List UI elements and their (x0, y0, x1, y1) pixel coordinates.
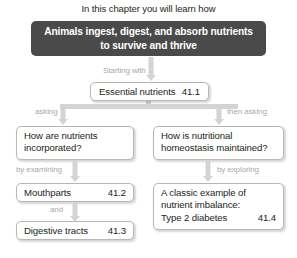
node-question-right[interactable]: How is nutritional homeostasis maintaine… (153, 126, 284, 160)
connector-hbar-split (60, 104, 238, 109)
connector-label-starting-with: Starting with (103, 66, 146, 75)
node-essential-nutrients-label: Essential nutrients (99, 86, 176, 98)
node-question-right-line-1: How is nutritional (161, 130, 276, 142)
node-type-2-diabetes-label: Type 2 diabetes (161, 212, 227, 224)
node-type-2-diabetes[interactable]: A classic example of nutrient imbalance:… (153, 183, 284, 230)
connector-label-by-examining: by examining (16, 165, 62, 174)
node-question-left[interactable]: How are nutrients incorporated? (16, 126, 134, 160)
arrow-to-mouthparts (70, 160, 80, 182)
node-mouthparts-label: Mouthparts (24, 187, 71, 199)
chapter-roadmap-figure: In this chapter you will learn how Anima… (0, 0, 297, 258)
node-digestive-tracts-number: 41.3 (102, 225, 126, 237)
arrow-to-digestive-tracts (70, 202, 80, 222)
node-type-2-diabetes-line-2: nutrient imbalance: (161, 199, 276, 211)
node-question-right-line-2: homeostasis maintained? (161, 142, 276, 154)
node-mouthparts-number: 41.2 (102, 187, 126, 199)
node-question-left-line-1: How are nutrients (24, 130, 126, 142)
arrow-to-question-right (214, 104, 224, 125)
node-essential-nutrients[interactable]: Essential nutrients 41.1 (90, 82, 209, 101)
node-digestive-tracts-label: Digestive tracts (24, 225, 88, 237)
node-type-2-diabetes-line-1: A classic example of (161, 187, 276, 199)
node-digestive-tracts[interactable]: Digestive tracts 41.3 (16, 221, 134, 240)
connector-label-asking: asking (35, 107, 58, 116)
banner-line-2: to survive and thrive (31, 39, 266, 53)
banner-line-1: Animals ingest, digest, and absorb nutri… (31, 25, 266, 39)
connector-label-and: and (50, 205, 63, 214)
node-mouthparts[interactable]: Mouthparts 41.2 (16, 183, 134, 202)
arrow-to-question-left (58, 104, 68, 125)
node-type-2-diabetes-number: 41.4 (252, 212, 276, 224)
arrow-to-diabetes (203, 160, 213, 182)
connector-label-then-asking: then asking (227, 107, 267, 116)
arrow-banner-to-essential (146, 57, 156, 81)
node-essential-nutrients-number: 41.1 (176, 86, 200, 98)
node-question-left-line-2: incorporated? (24, 142, 126, 154)
connector-label-by-exploring: by exploring (217, 165, 259, 174)
page-title: In this chapter you will learn how (0, 3, 297, 14)
chapter-theme-banner: Animals ingest, digest, and absorb nutri… (31, 21, 266, 56)
